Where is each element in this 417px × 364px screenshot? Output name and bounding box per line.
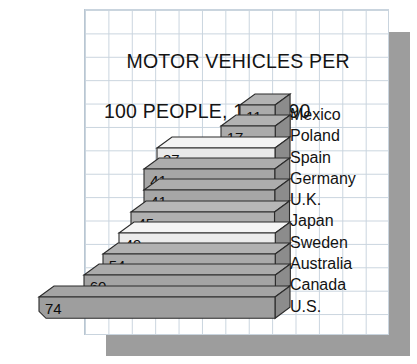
- country-label-poland: Poland: [290, 125, 356, 146]
- bar-top-face: [157, 137, 290, 148]
- bar-front-face: [39, 297, 275, 318]
- bar-top-face: [103, 243, 290, 254]
- bar-top-face: [144, 158, 290, 169]
- country-label-sweden: Sweden: [290, 232, 356, 253]
- country-label-mexico: Mexico: [290, 104, 356, 125]
- bar-value-label: 74: [45, 301, 62, 316]
- country-label-uk: U.K.: [290, 189, 356, 210]
- bar-top-face: [119, 222, 290, 233]
- country-label-us: U.S.: [290, 296, 356, 317]
- bar-top-face: [39, 286, 290, 297]
- chart-figure: MOTOR VEHICLES PER 100 PEOPLE, 1989–90 1…: [0, 0, 417, 364]
- bar-top-face: [144, 179, 290, 190]
- bar-top-face: [131, 201, 290, 212]
- country-label-column: MexicoPolandSpainGermanyU.K.JapanSwedenA…: [290, 104, 356, 317]
- country-label-germany: Germany: [290, 168, 356, 189]
- bar-top-face: [84, 264, 290, 275]
- country-label-australia: Australia: [290, 253, 356, 274]
- country-label-canada: Canada: [290, 274, 356, 295]
- country-label-spain: Spain: [290, 147, 356, 168]
- country-label-japan: Japan: [290, 210, 356, 231]
